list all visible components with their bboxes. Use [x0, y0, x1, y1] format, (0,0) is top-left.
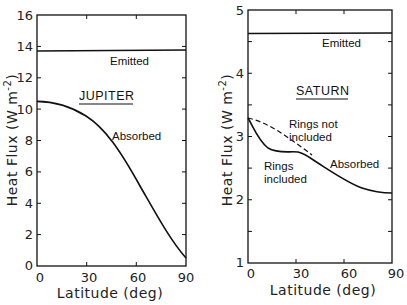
- saturn-xtick: 60: [341, 266, 358, 281]
- saturn-rings-inc-label-line2: included: [264, 173, 307, 185]
- saturn-absorbed-label: Absorbed: [330, 158, 379, 170]
- jupiter-ytick: 2: [25, 227, 33, 242]
- saturn-rings-not-label-line2: included: [289, 131, 332, 143]
- saturn-ytick: 1: [236, 255, 244, 270]
- jupiter-panel: 0 2 4 6 8 10 12 14 16 0 30 60 90 Latitud…: [2, 8, 194, 301]
- jupiter-y-axis-label: Heat Flux (W m-2): [2, 74, 20, 207]
- jupiter-xtick: 0: [36, 270, 44, 285]
- jupiter-xtick: 60: [130, 270, 147, 285]
- figure: 0 2 4 6 8 10 12 14 16 0 30 60 90 Latitud…: [0, 0, 407, 305]
- jupiter-ytick: 4: [25, 196, 33, 211]
- saturn-emitted-line: [248, 33, 392, 34]
- jupiter-ytick: 8: [25, 133, 33, 148]
- saturn-y-axis-label: Heat Flux (W m-2): [217, 74, 235, 207]
- jupiter-xtick: 30: [81, 270, 98, 285]
- saturn-rings-inc-label-line1: Rings: [264, 160, 294, 172]
- jupiter-emitted-line: [37, 50, 186, 51]
- saturn-x-axis-label: Latitude (deg): [270, 282, 376, 298]
- saturn-ytick: 3: [236, 129, 244, 144]
- saturn-ytick: 4: [236, 66, 244, 81]
- jupiter-absorbed-label: Absorbed: [112, 130, 161, 142]
- jupiter-emitted-label: Emitted: [110, 55, 149, 67]
- jupiter-xtick: 90: [178, 270, 195, 285]
- jupiter-x-axis-label: Latitude (deg): [57, 285, 163, 301]
- jupiter-absorbed-curve: [37, 101, 186, 258]
- jupiter-ytick: 16: [16, 8, 33, 23]
- saturn-panel: 1 2 3 4 5 0 30 60 90 Latitude (deg) Heat…: [217, 3, 404, 298]
- jupiter-ytick: 14: [16, 39, 33, 54]
- jupiter-title: JUPITER: [79, 89, 135, 103]
- jupiter-ytick: 0: [25, 258, 33, 273]
- saturn-xtick: 0: [247, 266, 255, 281]
- saturn-xtick: 90: [388, 266, 405, 281]
- saturn-emitted-label: Emitted: [322, 37, 361, 49]
- saturn-xtick: 30: [293, 266, 310, 281]
- saturn-ytick: 2: [236, 192, 244, 207]
- saturn-ytick: 5: [236, 3, 244, 18]
- saturn-title: SATURN: [296, 84, 349, 98]
- jupiter-ytick: 6: [25, 164, 33, 179]
- saturn-rings-not-label-line1: Rings not: [289, 118, 338, 130]
